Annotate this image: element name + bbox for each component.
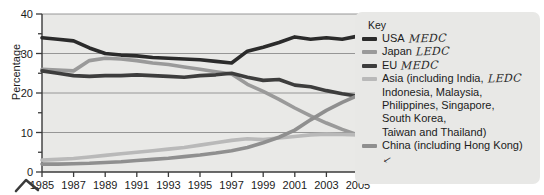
svg-text:1995: 1995: [188, 179, 212, 191]
svg-text:1997: 1997: [219, 179, 243, 191]
svg-text:10: 10: [21, 127, 33, 139]
svg-text:40: 40: [21, 8, 33, 20]
handwritten-annotation: MEDC: [401, 58, 439, 72]
svg-text:1987: 1987: [61, 179, 85, 191]
legend-item-japan[interactable]: JapanLEDC: [362, 45, 532, 58]
legend-swatch-usa: [362, 37, 377, 41]
legend-swatch-japan: [362, 50, 377, 54]
legend-item-asia[interactable]: Asia (including India,LEDCIndonesia, Mal…: [362, 72, 532, 139]
legend-item-label: JapanLEDC: [382, 45, 450, 58]
legend-item-label: China (including Hong Kong)↙: [382, 139, 532, 166]
svg-text:1991: 1991: [125, 179, 149, 191]
legend-items: USAMEDCJapanLEDCEUMEDCAsia (including In…: [362, 32, 532, 166]
svg-text:1993: 1993: [156, 179, 180, 191]
chart-legend: Key USAMEDCJapanLEDCEUMEDCAsia (includin…: [355, 12, 540, 184]
svg-text:1989: 1989: [93, 179, 117, 191]
x-axis: [42, 172, 358, 177]
legend-item-eu[interactable]: EUMEDC: [362, 59, 532, 72]
legend-swatch-asia: [362, 77, 377, 81]
handwritten-annotation: LEDC: [416, 45, 450, 59]
handwritten-annotation: LEDC: [487, 72, 521, 86]
handwritten-annotation: MEDC: [408, 32, 446, 46]
legend-swatch-eu: [362, 64, 377, 68]
legend-item-label: EUMEDC: [382, 59, 439, 72]
svg-text:20: 20: [21, 87, 33, 99]
legend-title: Key: [368, 19, 532, 31]
svg-text:0: 0: [27, 166, 33, 178]
line-chart: Percentage 010203040 1985198719891991199…: [0, 0, 372, 195]
svg-text:30: 30: [21, 48, 33, 60]
svg-text:2003: 2003: [314, 179, 338, 191]
handwritten-caret-mark: [14, 178, 40, 193]
svg-text:2001: 2001: [283, 179, 307, 191]
chart-svg: 010203040 198519871989199119931995199719…: [0, 0, 372, 195]
legend-swatch-china: [362, 144, 377, 148]
legend-item-china[interactable]: China (including Hong Kong)↙: [362, 139, 532, 166]
y-axis-tick-labels: 010203040: [21, 8, 33, 178]
legend-item-label: USAMEDC: [382, 32, 446, 45]
svg-text:1999: 1999: [251, 179, 275, 191]
legend-item-usa[interactable]: USAMEDC: [362, 32, 532, 45]
handwritten-annotation: ↙: [382, 152, 393, 167]
x-axis-tick-labels: 1985198719891991199319951997199920012003…: [30, 179, 370, 191]
legend-item-label: Asia (including India,LEDCIndonesia, Mal…: [382, 72, 521, 139]
chart-page: Percentage 010203040 1985198719891991199…: [0, 0, 544, 195]
